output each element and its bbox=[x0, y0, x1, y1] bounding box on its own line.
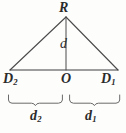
geometry-figure: R d D2 O D1 d2 d1 bbox=[0, 0, 126, 133]
brace-right bbox=[70, 95, 120, 106]
label-vertex-D1-subscript: 1 bbox=[111, 77, 115, 87]
label-segment-d2-base: d bbox=[30, 108, 37, 123]
triangle-right-side bbox=[66, 17, 118, 70]
label-segment-d1-base: d bbox=[85, 108, 92, 123]
label-vertex-D1-base: D bbox=[101, 71, 111, 86]
triangle-left-side bbox=[10, 17, 66, 70]
brace-left bbox=[9, 95, 63, 106]
label-segment-d2: d2 bbox=[30, 109, 41, 123]
label-altitude-d-text: d bbox=[60, 36, 67, 51]
label-vertex-D1: D1 bbox=[101, 72, 115, 86]
label-altitude-d: d bbox=[60, 37, 67, 51]
label-center-O: O bbox=[61, 72, 71, 86]
label-vertex-D2: D2 bbox=[3, 72, 17, 86]
label-vertex-D2-subscript: 2 bbox=[13, 77, 17, 87]
label-segment-d1: d1 bbox=[85, 109, 96, 123]
label-center-O-text: O bbox=[61, 71, 71, 86]
label-vertex-D2-base: D bbox=[3, 71, 13, 86]
label-apex-R-text: R bbox=[59, 0, 68, 15]
label-segment-d1-subscript: 1 bbox=[92, 114, 96, 124]
label-segment-d2-subscript: 2 bbox=[37, 114, 41, 124]
label-apex-R: R bbox=[59, 1, 68, 15]
figure-lines bbox=[0, 0, 126, 133]
